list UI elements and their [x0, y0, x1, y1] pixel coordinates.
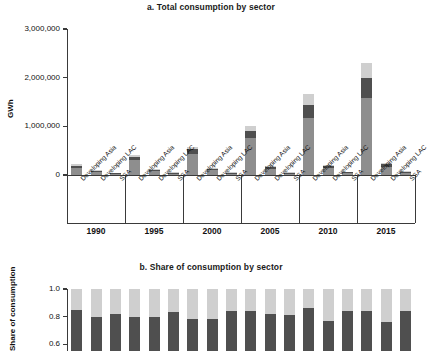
- panel-b-bar: [381, 289, 392, 351]
- panel-b-bar-segment: [187, 319, 198, 351]
- panel-b-bar-segment: [110, 289, 121, 314]
- panel-b-bar: [245, 289, 256, 351]
- panel-b-bar-segment: [129, 289, 140, 317]
- panel-b-bar-segment: [361, 311, 372, 351]
- panel-b-y-tick: [63, 316, 67, 317]
- panel-b-bar-segment: [284, 315, 295, 351]
- panel-b-bar-segment: [71, 310, 82, 351]
- panel-b-bar: [187, 289, 198, 351]
- panel-a-group-separator: [241, 175, 242, 223]
- panel-b-bar-segment: [91, 289, 102, 317]
- panel-a-bar-segment: [245, 131, 256, 138]
- panel-b-bar-segment: [361, 289, 372, 311]
- panel-b-bar-segment: [149, 317, 160, 351]
- panel-b-bar-segment: [342, 289, 353, 311]
- panel-b-bar-segment: [303, 289, 314, 308]
- panel-b-bar-segment: [400, 289, 411, 311]
- panel-a-bar-segment: [361, 63, 372, 78]
- panel-a-group-separator: [299, 175, 300, 223]
- panel-b-bar-segment: [91, 317, 102, 351]
- panel-b-bar-segment: [342, 311, 353, 351]
- panel-b-bar: [110, 289, 121, 351]
- panel-b-bar-segment: [381, 322, 392, 351]
- panel-a-bar: [361, 63, 372, 175]
- panel-a-group-label: 2005: [241, 226, 299, 236]
- panel-a-y-axis-label: GWh: [6, 99, 15, 118]
- panel-b-bar: [342, 289, 353, 351]
- panel-b-bar: [207, 289, 218, 351]
- panel-a-group-label: 2010: [299, 226, 357, 236]
- panel-a-group-label: 2015: [357, 226, 415, 236]
- panel-b-bar-segment: [226, 289, 237, 311]
- panel-a-y-tick: [63, 28, 67, 29]
- panel-b-bar: [323, 289, 334, 351]
- panel-a-group-separator: [67, 175, 68, 223]
- panel-b-bar: [129, 289, 140, 351]
- panel-b-bar-segment: [265, 314, 276, 351]
- panel-a-group-axis-rule: [67, 223, 415, 224]
- panel-b-y-tick: [63, 288, 67, 289]
- panel-b-bar-segment: [245, 289, 256, 311]
- panel-b-bar-segment: [381, 289, 392, 322]
- panel-b-bar: [149, 289, 160, 351]
- panel-b-bar-segment: [245, 311, 256, 351]
- panel-a-group-separator: [183, 175, 184, 223]
- panel-a-title: a. Total consumption by sector: [0, 2, 422, 12]
- panel-b-bar: [71, 289, 82, 351]
- panel-b-bar: [91, 289, 102, 351]
- panel-b-bar-segment: [323, 321, 334, 351]
- panel-b-y-tick-label: 1.0: [0, 284, 60, 293]
- panel-a-y-tick-label: 2,000,000: [0, 73, 60, 82]
- panel-a-bar-segment: [303, 105, 314, 118]
- panel-b-bar: [168, 289, 179, 351]
- panel-a-group-label: 1995: [125, 226, 183, 236]
- panel-total-consumption: a. Total consumption by sector GWh 01,00…: [0, 0, 422, 262]
- panel-b-bar-segment: [110, 314, 121, 351]
- panel-b-bar-segment: [168, 289, 179, 312]
- panel-b-bar-segment: [168, 312, 179, 351]
- panel-b-bar-segment: [129, 317, 140, 351]
- panel-a-bar-segment: [361, 98, 372, 175]
- panel-b-bar: [265, 289, 276, 351]
- panel-b-bar-segment: [207, 319, 218, 351]
- panel-a-group-label: 1990: [67, 226, 125, 236]
- panel-b-bar-segment: [303, 308, 314, 351]
- panel-a-y-tick-label: 1,000,000: [0, 121, 60, 130]
- panel-a-y-tick: [63, 77, 67, 78]
- panel-b-bar-segment: [323, 289, 334, 321]
- panel-b-bar-segment: [265, 289, 276, 314]
- panel-a-group-separator: [125, 175, 126, 223]
- panel-b-bar-segment: [207, 289, 218, 319]
- panel-b-bar-segment: [71, 289, 82, 310]
- panel-a-group-separator: [415, 175, 416, 223]
- panel-b-bar-segment: [400, 311, 411, 351]
- panel-b-bar: [361, 289, 372, 351]
- panel-a-y-tick: [63, 126, 67, 127]
- panel-b-bar: [303, 289, 314, 351]
- panel-b-y-tick-label: 0.8: [0, 312, 60, 321]
- panel-b-plot-area: [67, 289, 415, 351]
- panel-b-title: b. Share of consumption by sector: [0, 262, 422, 272]
- panel-share-consumption: b. Share of consumption by sector Share …: [0, 262, 422, 351]
- panel-b-bar-segment: [226, 311, 237, 351]
- panel-a-bar-segment: [361, 78, 372, 98]
- panel-b-y-tick-label: 0.6: [0, 339, 60, 348]
- panel-a-y-tick-label: 0: [0, 170, 60, 179]
- panel-b-y-tick: [63, 344, 67, 345]
- panel-b-bar-segment: [284, 289, 295, 315]
- panel-b-bar-segment: [187, 289, 198, 319]
- panel-b-bar: [400, 289, 411, 351]
- panel-a-group-label: 2000: [183, 226, 241, 236]
- panel-a-bar: [303, 94, 314, 175]
- panel-a-y-tick-label: 3,000,000: [0, 24, 60, 33]
- panel-b-bar: [226, 289, 237, 351]
- panel-b-bar-segment: [149, 289, 160, 317]
- panel-b-bar: [284, 289, 295, 351]
- panel-a-group-separator: [357, 175, 358, 223]
- panel-a-bar-segment: [303, 94, 314, 105]
- panel-a-bar: [71, 164, 82, 175]
